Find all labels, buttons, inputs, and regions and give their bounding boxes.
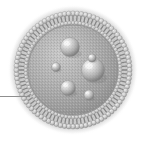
liposome-figure: Grayscale cross-sectional illustration o… [0, 0, 144, 143]
liposome-illustration [0, 0, 144, 143]
membrane-halftone-overlay [15, 12, 131, 128]
